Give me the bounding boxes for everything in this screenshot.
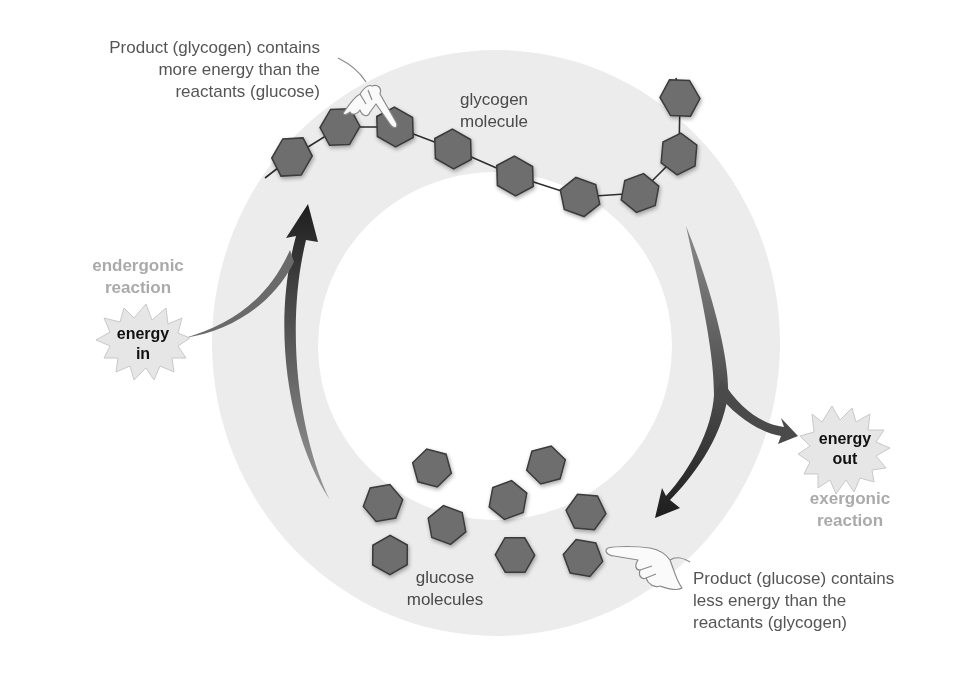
- energy-in-label: energy in: [98, 324, 188, 364]
- glucose-energy-note: Product (glucose) contains less energy t…: [693, 568, 953, 634]
- note-line: reactants (glycogen): [693, 612, 953, 634]
- note-line: less energy than the: [693, 590, 953, 612]
- label-line: molecule: [460, 111, 580, 133]
- label-line: reaction: [68, 277, 208, 299]
- energy-out-label: energy out: [800, 429, 890, 469]
- glycogen-energy-note: Product (glycogen) contains more energy …: [60, 37, 320, 103]
- label-line: energy: [800, 429, 890, 449]
- note-line: more energy than the: [60, 59, 320, 81]
- label-line: in: [98, 344, 188, 364]
- label-line: molecules: [390, 589, 500, 611]
- note-line: Product (glycogen) contains: [60, 37, 320, 59]
- label-line: glycogen: [460, 89, 580, 111]
- label-line: glucose: [390, 567, 500, 589]
- note-line: Product (glucose) contains: [693, 568, 953, 590]
- label-line: energy: [98, 324, 188, 344]
- glycogen-glucose-energy-cycle: Product (glycogen) contains more energy …: [0, 0, 976, 683]
- label-line: endergonic: [68, 255, 208, 277]
- glucose-molecules-label: glucose molecules: [390, 567, 500, 611]
- label-line: reaction: [790, 510, 910, 532]
- label-line: out: [800, 449, 890, 469]
- note-line: reactants (glucose): [60, 81, 320, 103]
- exergonic-reaction-label: exergonic reaction: [790, 488, 910, 532]
- glycogen-molecule-label: glycogen molecule: [460, 89, 580, 133]
- endergonic-reaction-label: endergonic reaction: [68, 255, 208, 299]
- label-line: exergonic: [790, 488, 910, 510]
